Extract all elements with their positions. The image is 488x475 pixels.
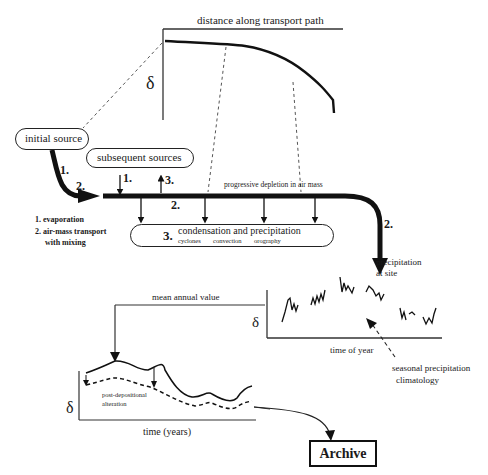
seasonal-annotation-line2: climatology [396, 376, 439, 385]
isotope-transport-diagram: distance along transport path δ initial … [0, 0, 488, 475]
archive-box: Archive [309, 440, 377, 467]
subsequent-step-1: 1. [123, 172, 132, 184]
condensation-number: 3. [163, 229, 173, 242]
right-step-2: 2. [384, 218, 393, 230]
subsequent-step-3: 3. [165, 174, 174, 186]
left-chart-ylabel: δ [66, 400, 74, 416]
legend-with-mixing: with mixing [45, 239, 86, 247]
legend-air-mass-transport: 2. air-mass transport [35, 228, 106, 236]
legend-evaporation: 1. evaporation [35, 216, 84, 224]
top-chart-axes [163, 29, 343, 120]
right-chart-axes [267, 277, 442, 338]
post-depositional-line2: alteration [102, 401, 127, 408]
transport-step-2: 2. [171, 199, 180, 211]
condensation-item-cyclones: cyclones [178, 238, 201, 245]
condensation-item-convection: convection [213, 238, 242, 245]
initial-step-2: 2. [76, 180, 85, 192]
initial-source-label: initial source [25, 133, 82, 144]
left-chart-xlabel: time (years) [143, 427, 191, 437]
mean-annual-value-label: mean annual value [152, 293, 219, 302]
precip-site-line2: at site [376, 269, 397, 278]
condensation-title: condensation and precipitation [178, 226, 301, 236]
post-depositional-line1: post-depositional [102, 392, 147, 399]
condensation-item-orography: orography [254, 238, 281, 245]
right-chart-ylabel: δ [252, 315, 259, 330]
initial-step-1: 1. [60, 164, 69, 176]
depletion-label: progressive depletion in air mass [224, 181, 323, 189]
precip-site-line1: precipitation [376, 258, 421, 267]
top-chart-title: distance along transport path [197, 15, 324, 26]
seasonal-annotation-line1: seasonal precipitation [392, 364, 470, 373]
top-chart-ylabel: δ [146, 74, 154, 92]
right-chart-xlabel: time of year [330, 346, 373, 355]
subsequent-sources-label: subsequent sources [97, 152, 182, 163]
